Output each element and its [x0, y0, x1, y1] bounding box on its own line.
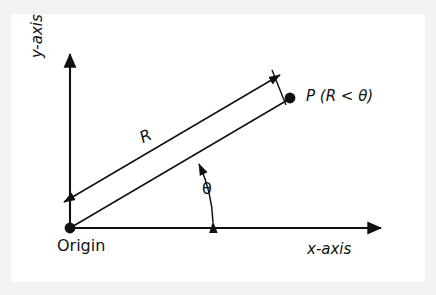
point-p-label: P (R < θ): [306, 89, 373, 104]
theta-label: θ: [202, 181, 212, 197]
origin-label: Origin: [57, 238, 105, 254]
radius-line: [70, 98, 291, 228]
radius-dimension-arrow: [64, 75, 280, 202]
x-axis-label: x-axis: [307, 242, 351, 257]
y-axis-label: y-axis: [30, 14, 45, 58]
diagram-root: y-axis x-axis Origin P (R < θ) θ R: [0, 0, 436, 295]
origin-dot: [65, 223, 76, 234]
point-p-dot: [285, 93, 296, 104]
